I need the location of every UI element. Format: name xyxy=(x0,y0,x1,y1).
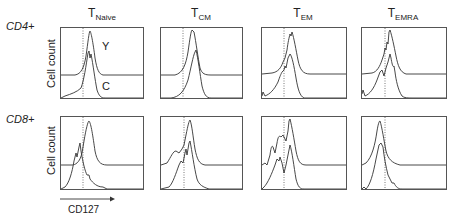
histogram-cd4-emra xyxy=(361,27,447,99)
x-axis-arrow-icon xyxy=(60,195,116,203)
row-label-cd8: CD8+ xyxy=(6,113,34,125)
histogram-cd8-cm xyxy=(160,116,243,190)
histogram-cd8-em xyxy=(261,116,347,190)
histogram-cd4-cm xyxy=(160,27,243,99)
histogram-cd4-em xyxy=(261,27,347,99)
y-axis-label-top: Cell count xyxy=(45,39,57,88)
col-title-em: TEM xyxy=(258,6,348,22)
histogram-cd8-emra xyxy=(361,116,447,190)
x-axis-label: CD127 xyxy=(68,204,99,215)
col-title-cm: TCM xyxy=(156,6,246,22)
col-title-emra: TEMRA xyxy=(358,6,448,22)
histogram-cd4-naive: Y C xyxy=(60,27,144,99)
histogram-cd8-naive xyxy=(60,116,144,190)
row-label-cd4: CD4+ xyxy=(6,20,34,32)
series-label-y: Y xyxy=(102,40,109,52)
series-label-c: C xyxy=(102,80,110,92)
y-axis-label-bottom: Cell count xyxy=(45,126,57,175)
col-title-naive: TNaive xyxy=(57,6,147,22)
